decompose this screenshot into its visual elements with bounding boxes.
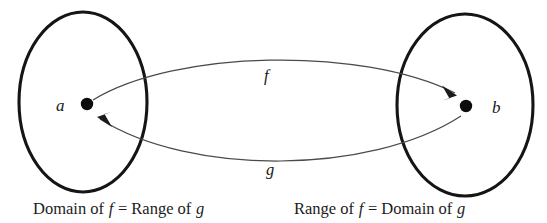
right-caption-middle: = Domain of	[364, 199, 457, 218]
function-label-f: f	[264, 68, 269, 85]
right-caption-prefix: Range of	[294, 199, 358, 218]
inverse-map-arrowhead	[97, 112, 112, 127]
left-caption-var-g: g	[195, 199, 204, 218]
left-caption-prefix: Domain of	[33, 199, 108, 218]
right-caption-var-g: g	[456, 199, 465, 218]
right-set-caption: Range of f = Domain of g	[294, 199, 466, 219]
element-dot-b	[460, 100, 472, 112]
left-set-caption: Domain of f = Range of g	[33, 199, 205, 219]
function-label-g: g	[266, 162, 274, 179]
element-dot-a	[81, 98, 93, 110]
left-caption-middle: = Range of	[114, 199, 196, 218]
inverse-function-diagram: a b f g Domain of f = Range of g Range o…	[0, 0, 547, 223]
diagram-canvas	[0, 0, 547, 223]
element-label-b: b	[492, 99, 501, 116]
element-label-a: a	[56, 97, 65, 114]
